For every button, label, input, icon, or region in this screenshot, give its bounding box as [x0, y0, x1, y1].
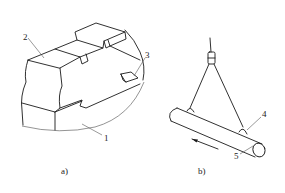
leader-3 [134, 58, 145, 76]
lug-left [187, 108, 194, 112]
callout-3: 3 [145, 50, 150, 60]
sling-left [190, 64, 209, 108]
subfigure-a: 2 3 1 a) [22, 23, 151, 176]
leader-4 [247, 117, 261, 130]
caption-b: b) [198, 166, 206, 176]
lifting-rope [210, 38, 211, 52]
leader-5 [240, 146, 253, 154]
direction-arrow [192, 139, 218, 149]
cylindrical-bar [169, 108, 267, 159]
callout-4: 4 [262, 109, 267, 119]
sling-right [214, 64, 243, 127]
leader-2 [28, 38, 44, 58]
callout-1: 1 [104, 133, 109, 143]
callout-5: 5 [234, 151, 239, 161]
lug-right [239, 129, 247, 134]
technical-figure: 2 3 1 a) 4 5 [0, 0, 285, 193]
subfigure-b: 4 5 b) [169, 38, 267, 176]
callout-2: 2 [23, 32, 28, 42]
caption-a: a) [61, 166, 68, 176]
curved-support-arc [22, 82, 144, 131]
